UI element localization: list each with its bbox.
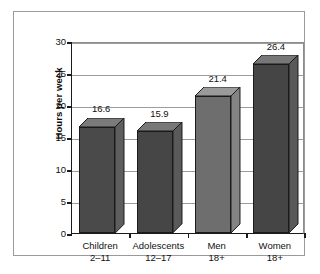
figure-frame: Hours per week 051015202530 16.615.921.4… bbox=[13, 11, 305, 256]
y-axis-tick-label: 10 bbox=[55, 165, 66, 175]
bar-value-label: 16.6 bbox=[71, 104, 131, 114]
y-axis-tick-labels: 051015202530 bbox=[44, 42, 66, 234]
bar[interactable] bbox=[137, 122, 173, 233]
bar-top-face bbox=[79, 118, 115, 127]
y-axis-tick-mark bbox=[67, 234, 72, 236]
bar-top-face bbox=[253, 55, 289, 64]
y-axis-tick-label: 5 bbox=[61, 197, 66, 207]
y-axis-tick-label: 0 bbox=[61, 229, 66, 239]
y-axis-tick-label: 15 bbox=[55, 133, 66, 143]
bar-value-label: 15.9 bbox=[129, 109, 189, 119]
y-axis-tick-label: 30 bbox=[55, 37, 66, 47]
x-axis-tick-mark bbox=[304, 233, 306, 238]
y-axis-tick-mark bbox=[67, 42, 72, 44]
y-axis-tick-mark bbox=[67, 202, 72, 204]
bar[interactable] bbox=[253, 55, 289, 233]
bar-top-face bbox=[137, 122, 173, 131]
bar-side-face bbox=[115, 118, 124, 233]
bar[interactable] bbox=[195, 87, 231, 233]
y-axis-tick-mark bbox=[67, 170, 72, 172]
bar-side-face bbox=[289, 55, 298, 233]
bar-side-face bbox=[173, 122, 182, 233]
plot-area: 16.615.921.426.4 bbox=[71, 42, 304, 234]
x-axis-tick-label: Women18+ bbox=[232, 240, 318, 264]
bar-top-face bbox=[195, 87, 231, 96]
y-axis-tick-label: 20 bbox=[55, 101, 66, 111]
bar-value-label: 26.4 bbox=[246, 42, 306, 52]
bar[interactable] bbox=[79, 118, 115, 233]
x-axis-tick-mark bbox=[246, 233, 248, 238]
bar-value-label: 21.4 bbox=[188, 74, 248, 84]
bar-side-face bbox=[231, 87, 240, 233]
x-axis-tick-mark bbox=[129, 233, 131, 238]
x-axis-tick-label-line1: Children bbox=[82, 240, 117, 251]
y-axis-tick-label: 25 bbox=[55, 69, 66, 79]
y-axis-tick-mark bbox=[67, 74, 72, 76]
bar-front-face bbox=[79, 127, 115, 233]
x-axis-tick-label-line1: Men bbox=[207, 240, 225, 251]
y-axis-tick-mark bbox=[67, 138, 72, 140]
chart-figure: Hours per week 051015202530 16.615.921.4… bbox=[0, 0, 320, 274]
bar-front-face bbox=[253, 64, 289, 233]
x-axis-tick-label-line2: 18+ bbox=[232, 252, 318, 264]
bar-front-face bbox=[137, 131, 173, 233]
bar-front-face bbox=[195, 96, 231, 233]
x-axis-tick-mark bbox=[188, 233, 190, 238]
x-axis-tick-label-line1: Women bbox=[259, 240, 292, 251]
x-axis-tick-labels: Children2–11Adolescents12–17Men18+Women1… bbox=[71, 240, 304, 274]
